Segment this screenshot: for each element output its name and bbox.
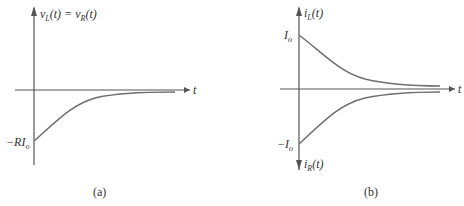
panel-b-y-down-arrow-icon [296, 160, 302, 170]
panel-a-y-label: vL(t) = vR(t) [40, 7, 97, 23]
panel-b-resistor-current-curve [299, 92, 440, 144]
panel-b-y-up-arrow-icon [296, 6, 302, 16]
panel-a-x-label: t [193, 83, 197, 97]
panel-a-y-arrow-icon [31, 6, 37, 16]
panel-a-voltage-curve [34, 92, 175, 141]
panel-a: vL(t) = vR(t) t −RIo (a) [6, 6, 197, 199]
panel-b-y-top-label: iL(t) [304, 6, 323, 22]
panel-b-caption: (b) [364, 185, 378, 199]
panel-b-x-label: t [458, 82, 462, 96]
panel-b-inductor-current-curve [299, 35, 440, 86]
panel-a-caption: (a) [93, 185, 106, 199]
panel-b-positive-value-label: Io [283, 28, 292, 44]
panel-b-negative-value-label: −Io [277, 137, 293, 153]
panel-a-initial-value-label: −RIo [6, 135, 29, 151]
diagram-canvas: vL(t) = vR(t) t −RIo (a) iL(t) iR(t) t I… [0, 0, 464, 206]
panel-b: iL(t) iR(t) t Io −Io (b) [277, 6, 462, 199]
panel-b-y-bottom-label: iR(t) [304, 157, 324, 173]
